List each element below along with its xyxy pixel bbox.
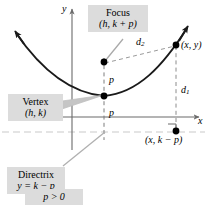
distance-d2-subscript: 2	[141, 40, 145, 48]
distance-d2-label: d2	[136, 36, 145, 48]
point-xy	[173, 42, 180, 49]
distance-d1-label: d1	[181, 84, 190, 96]
directrix-leader-line	[63, 132, 105, 166]
p-condition-text: p > 0	[25, 191, 83, 202]
point-x-k-minus-p-label: (x, k − p)	[145, 134, 182, 145]
focus-point	[101, 59, 108, 66]
parabola-diagram: y x (x, y) (x, k − p) p p d2 d1 Focus (h…	[0, 0, 207, 208]
parabola-arrow-left	[15, 31, 24, 44]
focus-callout-title: Focus	[88, 7, 148, 18]
x-axis-label: x	[198, 115, 202, 126]
p-upper-label: p	[109, 74, 114, 85]
y-axis-label: y	[62, 3, 66, 14]
distance-d1-subscript: 1	[186, 88, 190, 96]
directrix-callout-title: Directrix	[7, 169, 65, 180]
p-lower-label: p	[109, 107, 114, 118]
vertex-callout: Vertex (h, k)	[8, 94, 63, 121]
point-xy-label: (x, y)	[181, 39, 202, 50]
focus-callout-coords: (h, k + p)	[88, 18, 148, 29]
vertex-callout-title: Vertex	[8, 96, 63, 107]
vertex-leader-line	[62, 95, 104, 109]
vertex-callout-coords: (h, k)	[8, 107, 63, 118]
focus-callout: Focus (h, k + p)	[88, 5, 148, 32]
vertex-point	[101, 93, 108, 100]
focus-leader-line	[105, 39, 123, 61]
p-condition-callout: p > 0	[25, 189, 83, 205]
